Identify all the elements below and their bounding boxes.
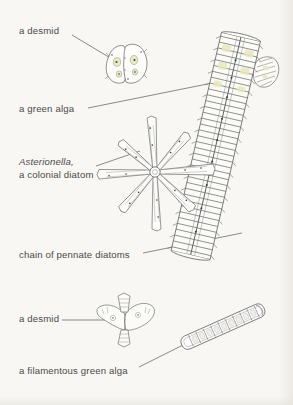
label-green-alga: a green alga — [19, 103, 74, 116]
desmid-butterfly-icon — [105, 44, 147, 83]
label-asterionella-genus: Asterionella, — [19, 156, 74, 167]
illustration-page: a desmid a green alga Asterionella, a co… — [0, 0, 293, 405]
label-desmid-lower: a desmid — [19, 313, 59, 326]
algae-plate-artwork — [0, 0, 293, 405]
leader-desmid-top — [72, 35, 112, 59]
label-desmid-top: a desmid — [19, 25, 59, 38]
label-asterionella: Asterionella, a colonial diatom — [19, 156, 94, 181]
desmid-stellate-icon — [97, 293, 155, 347]
leader-filament — [139, 344, 185, 367]
label-asterionella-description: a colonial diatom — [19, 169, 94, 180]
filamentous-green-alga-icon — [179, 302, 267, 351]
label-filamentous-alga: a filamentous green alga — [19, 365, 128, 378]
label-pennate-chain: chain of pennate diatoms — [19, 249, 130, 262]
